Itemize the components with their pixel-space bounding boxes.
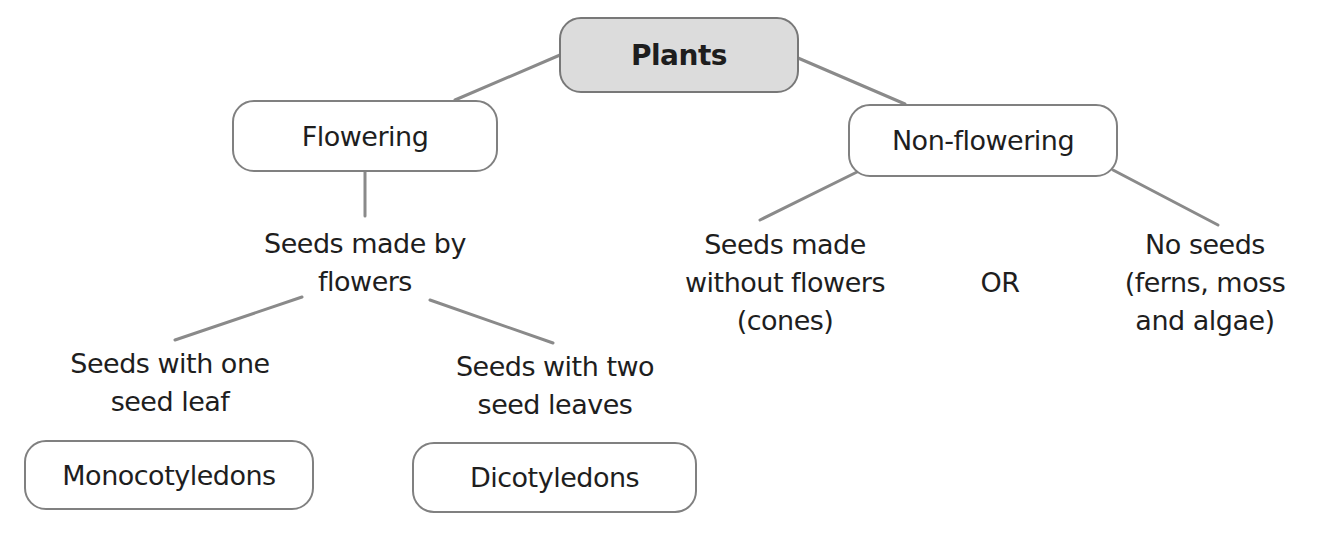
line-nonflowering-cones <box>760 172 857 220</box>
monocotyledons-label: Monocotyledons <box>62 460 275 491</box>
seeds-without-flowers-text: Seeds made without flowers (cones) <box>655 226 915 340</box>
one-seed-leaf-text: Seeds with one seed leaf <box>20 345 320 421</box>
line-seeds-mono <box>175 297 302 340</box>
line-nonflowering-noseeds <box>1113 170 1218 225</box>
line-seeds-di <box>430 300 553 343</box>
dicotyledons-node: Dicotyledons <box>412 442 697 513</box>
dicotyledons-label: Dicotyledons <box>470 462 639 493</box>
flowering-node: Flowering <box>232 100 498 172</box>
no-seeds-text: No seeds (ferns, moss and algae) <box>1090 226 1320 340</box>
flowering-label: Flowering <box>302 121 429 152</box>
non-flowering-node: Non-flowering <box>848 104 1118 177</box>
plants-label: Plants <box>631 39 727 72</box>
non-flowering-label: Non-flowering <box>892 125 1074 156</box>
seeds-made-by-flowers-text: Seeds made by flowers <box>215 225 515 301</box>
plants-node: Plants <box>559 17 799 93</box>
or-text: OR <box>960 264 1040 302</box>
line-plants-nonflowering <box>798 58 905 104</box>
two-seed-leaves-text: Seeds with two seed leaves <box>405 348 705 424</box>
monocotyledons-node: Monocotyledons <box>24 440 314 510</box>
line-plants-flowering <box>455 55 560 100</box>
